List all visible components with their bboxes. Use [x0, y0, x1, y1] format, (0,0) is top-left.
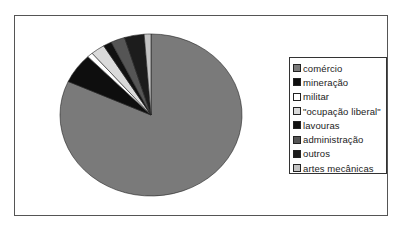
legend-item: administração — [293, 132, 386, 146]
legend-swatch-icon — [293, 107, 301, 115]
legend-item: comércio — [293, 61, 386, 75]
legend-item: lavouras — [293, 118, 386, 132]
chart-legend: comércio mineração militar "ocupação lib… — [289, 57, 387, 174]
legend-swatch-icon — [293, 150, 301, 158]
legend-item: mineração — [293, 75, 386, 89]
legend-swatch-icon — [293, 164, 301, 172]
legend-swatch-icon — [293, 93, 301, 101]
legend-item: outros — [293, 147, 386, 161]
legend-item: artes mecânicas — [293, 161, 386, 175]
legend-swatch-icon — [293, 136, 301, 144]
legend-item: militar — [293, 90, 386, 104]
legend-swatch-icon — [293, 64, 301, 72]
legend-swatch-icon — [293, 121, 301, 129]
legend-item: "ocupação liberal" — [293, 104, 386, 118]
legend-swatch-icon — [293, 78, 301, 86]
